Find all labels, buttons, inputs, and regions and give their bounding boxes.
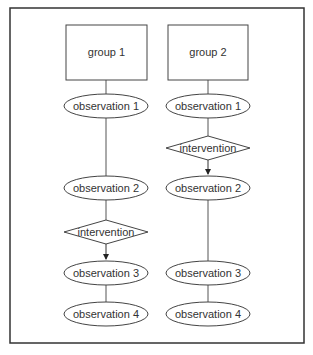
svg-text:intervention: intervention xyxy=(78,226,135,238)
diagram-frame xyxy=(10,8,304,343)
svg-text:observation 3: observation 3 xyxy=(73,267,139,279)
svg-text:observation 2: observation 2 xyxy=(73,182,139,194)
svg-text:observation 1: observation 1 xyxy=(175,100,241,112)
group-2-observation-1: observation 1 xyxy=(166,94,250,118)
group-2-intervention: intervention xyxy=(166,136,250,160)
group-1-observation-2: observation 2 xyxy=(64,176,148,200)
svg-text:group 2: group 2 xyxy=(189,46,226,58)
svg-text:observation 1: observation 1 xyxy=(73,100,139,112)
group-2-observation-4: observation 4 xyxy=(166,302,250,326)
svg-text:observation 2: observation 2 xyxy=(175,182,241,194)
group-1-box: group 1 xyxy=(66,25,147,80)
svg-text:observation 4: observation 4 xyxy=(73,308,139,320)
group-1-observation-3: observation 3 xyxy=(64,261,148,285)
svg-text:observation 3: observation 3 xyxy=(175,267,241,279)
svg-text:intervention: intervention xyxy=(180,142,237,154)
svg-text:observation 4: observation 4 xyxy=(175,308,241,320)
group-1-observation-4: observation 4 xyxy=(64,302,148,326)
group-2-column: group 2 observation 1 intervention obser… xyxy=(166,25,250,326)
group-1-column: group 1 observation 1 observation 2 inte… xyxy=(64,25,148,326)
study-design-diagram: group 1 observation 1 observation 2 inte… xyxy=(0,0,313,355)
group-1-intervention: intervention xyxy=(64,220,148,244)
group-2-observation-2: observation 2 xyxy=(166,176,250,200)
group-2-observation-3: observation 3 xyxy=(166,261,250,285)
group-1-observation-1: observation 1 xyxy=(64,94,148,118)
svg-text:group 1: group 1 xyxy=(88,46,125,58)
group-2-box: group 2 xyxy=(168,25,248,80)
